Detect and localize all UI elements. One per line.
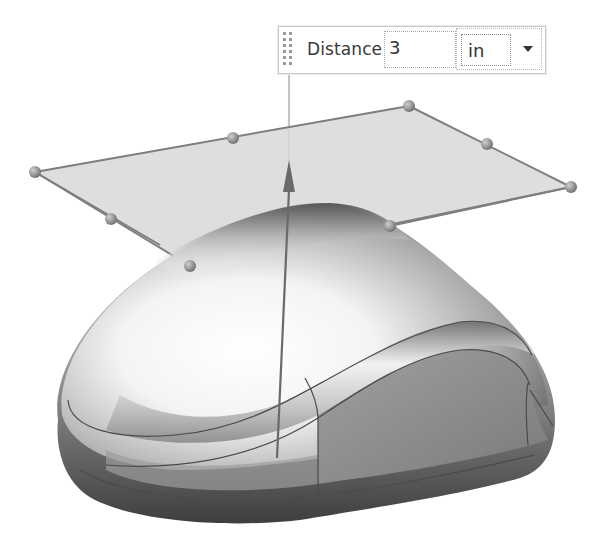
distance-value-input[interactable]: 3	[384, 31, 456, 68]
drag-handle-corner-top[interactable]	[403, 100, 415, 112]
unit-dropdown[interactable]: in	[456, 28, 542, 70]
3d-viewport[interactable]	[0, 0, 606, 559]
drag-handle-edge-top-right[interactable]	[481, 138, 493, 150]
drag-handle-corner-left[interactable]	[29, 166, 41, 178]
grip-dots-icon[interactable]	[283, 32, 293, 68]
drag-handle-corner-bottom[interactable]	[184, 260, 196, 272]
distance-label: Distance	[307, 39, 382, 59]
mouse-body-model[interactable]	[57, 203, 555, 523]
drag-handle-edge-bottom-right[interactable]	[384, 220, 396, 232]
drag-handle-corner-right[interactable]	[565, 181, 577, 193]
chevron-down-icon[interactable]	[523, 46, 533, 52]
distance-mini-dialog: Distance 3 in	[278, 26, 546, 74]
drag-handle-edge-top-left[interactable]	[227, 132, 239, 144]
drag-handle-edge-left[interactable]	[105, 213, 117, 225]
unit-selected-value[interactable]: in	[461, 34, 511, 66]
